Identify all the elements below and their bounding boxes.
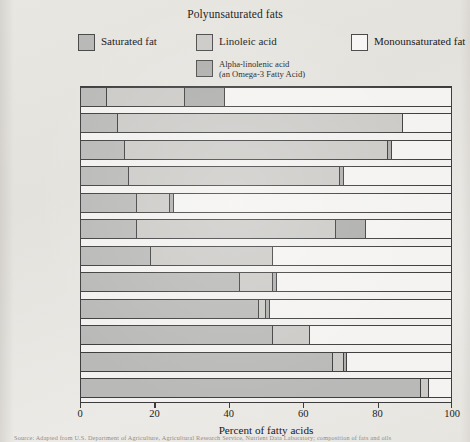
bar-segment-linoleic (151, 247, 273, 265)
bar-segment-mono (225, 88, 451, 106)
bar-row: Butterfat* (80, 352, 452, 372)
legend-swatch-alpha-linolenic-acid (196, 60, 213, 77)
source-footnote: Source: Adapted from U.S. Department of … (14, 434, 460, 442)
bar-segment-saturated (81, 114, 118, 132)
bar-segment-mono (366, 220, 451, 238)
legend-swatch-saturated-fat (78, 34, 95, 51)
bar-segment-saturated (81, 379, 421, 397)
bar-segment-saturated (81, 88, 107, 106)
bar-segment-saturated (81, 300, 259, 318)
stacked-bar[interactable] (80, 219, 452, 239)
stacked-bar[interactable] (80, 140, 452, 160)
bar-row: Sunflower oil (80, 140, 452, 160)
bar-segment-linoleic (273, 326, 310, 344)
legend-label-monounsaturated-fat: Monounsaturated fat (374, 33, 465, 47)
bar-row: Coconut oil (80, 378, 452, 398)
x-axis-tick-label: 100 (444, 408, 460, 419)
bar-segment-saturated (81, 194, 137, 212)
stacked-bar[interactable] (80, 299, 452, 319)
bar-segment-mono (273, 247, 451, 265)
bar-row: Olive oil (80, 193, 452, 213)
bar-segment-linoleic (240, 273, 273, 291)
bar-segment-linoleic (259, 300, 266, 318)
bar-row: Soybean oil (80, 219, 452, 239)
bar-segment-saturated (81, 247, 151, 265)
bar-segment-mono (174, 194, 452, 212)
legend-label-saturated-fat: Saturated fat (101, 33, 157, 47)
legend-item-alpha-linolenic-acid: Alpha-linolenic acid (an Omega-3 Fatty A… (196, 59, 305, 79)
bar-segment-linoleic (129, 167, 340, 185)
stacked-bar[interactable] (80, 352, 452, 372)
bar-row: Peanut oil (80, 246, 452, 266)
bar-row: Corn oil (80, 166, 452, 186)
plot-area: Canola oilSafflower oilSunflower oilCorn… (80, 86, 452, 403)
bar-segment-mono (310, 326, 451, 344)
bar-segment-mono (277, 273, 451, 291)
bar-segment-linoleic (421, 379, 428, 397)
stacked-bar[interactable] (80, 272, 452, 292)
bar-row: Palm oil (80, 325, 452, 345)
bar-segment-mono (392, 141, 451, 159)
bar-segment-saturated (81, 273, 240, 291)
stacked-bar[interactable] (80, 166, 452, 186)
chart-page: Polyunsaturated fats Saturated fat Linol… (0, 0, 470, 442)
legend-swatch-linoleic-acid (196, 34, 213, 51)
bar-segment-mono (344, 167, 451, 185)
x-axis-tick-label: 40 (224, 408, 235, 419)
legend-item-monounsaturated-fat: Monounsaturated fat (351, 33, 465, 51)
bar-segment-saturated (81, 141, 125, 159)
legend-label-linoleic-acid: Linoleic acid (219, 33, 277, 47)
bar-segment-linoleic (137, 194, 170, 212)
bar-segment-mono (270, 300, 451, 318)
legend-label-alpha-linolenic-acid: Alpha-linolenic acid (an Omega-3 Fatty A… (219, 59, 305, 79)
bar-segment-alinolenic (185, 88, 226, 106)
bar-row: Safflower oil (80, 113, 452, 133)
stacked-bar[interactable] (80, 193, 452, 213)
stacked-bar[interactable] (80, 113, 452, 133)
bar-row: Canola oil (80, 87, 452, 107)
bar-segment-mono (403, 114, 451, 132)
bar-segment-mono (347, 353, 451, 371)
legend-item-saturated-fat: Saturated fat (78, 33, 157, 51)
x-axis-tick-label: 60 (298, 408, 309, 419)
stacked-bar[interactable] (80, 378, 452, 398)
bar-row: Beef tallow* (80, 299, 452, 319)
bar-segment-mono (429, 379, 451, 397)
bar-segment-saturated (81, 220, 137, 238)
stacked-bar[interactable] (80, 325, 452, 345)
bar-segment-linoleic (118, 114, 403, 132)
bar-segment-alinolenic (336, 220, 366, 238)
bar-segment-linoleic (125, 141, 388, 159)
x-axis-tick-label: 0 (77, 408, 82, 419)
bar-segment-linoleic (137, 220, 337, 238)
x-axis-tick-label: 20 (149, 408, 160, 419)
bar-segment-saturated (81, 326, 273, 344)
bar-row: Lard* (80, 272, 452, 292)
bar-segment-linoleic (107, 88, 185, 106)
legend-title: Polyunsaturated fats (0, 8, 470, 20)
legend-swatch-monounsaturated-fat (351, 34, 368, 51)
stacked-bar[interactable] (80, 87, 452, 107)
stacked-bar[interactable] (80, 246, 452, 266)
bar-segment-saturated (81, 353, 333, 371)
x-axis-tick-label: 80 (372, 408, 383, 419)
bar-segment-saturated (81, 167, 129, 185)
legend-item-linoleic-acid: Linoleic acid (196, 33, 277, 51)
bar-segment-linoleic (333, 353, 344, 371)
